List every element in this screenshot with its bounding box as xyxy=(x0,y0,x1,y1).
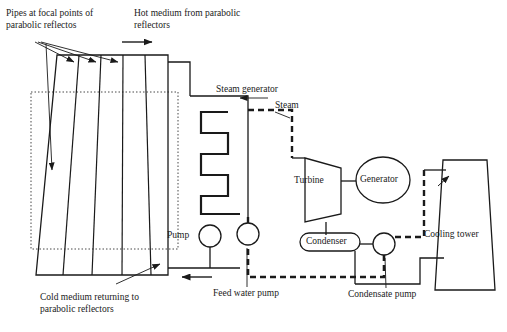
label-condenser: Condenser xyxy=(306,236,347,248)
cooling-tower-inlet-arrow xyxy=(438,176,449,186)
cooling-tower-body xyxy=(435,160,495,290)
diagram-drawing xyxy=(0,0,507,332)
label-pipes-at-focal-points: Pipes at focal points of parabolic refle… xyxy=(6,8,126,31)
collector-pipes xyxy=(63,55,151,275)
turbine-body xyxy=(305,158,341,222)
label-hot-medium: Hot medium from parabolic reflectors xyxy=(134,8,264,31)
label-pump: Pump xyxy=(167,230,189,242)
solar-loop-pump-body xyxy=(199,225,221,247)
label-condensate-pump: Condensate pump xyxy=(348,289,416,301)
diagram-canvas: Pipes at focal points of parabolic refle… xyxy=(0,0,507,332)
label-steam: Steam xyxy=(275,100,299,112)
cooling-water-return xyxy=(355,170,446,284)
label-cold-medium: Cold medium returning to parabolic refle… xyxy=(40,292,190,315)
solar-field-dotted-boundary xyxy=(31,92,178,249)
condensate-return-line xyxy=(248,245,384,277)
steam-label-leader xyxy=(275,112,290,118)
steam-line xyxy=(248,110,292,158)
feed-water-pump-body xyxy=(237,223,259,245)
label-generator: Generator xyxy=(360,174,398,186)
label-cooling-tower: Cooling tower xyxy=(424,229,479,241)
condensate-pump-body xyxy=(373,233,395,255)
steam-generator-vessel xyxy=(190,96,248,222)
label-feed-water-pump: Feed water pump xyxy=(213,288,279,300)
steam-generator-coil xyxy=(201,112,240,214)
label-steam-generator: Steam generator xyxy=(216,84,278,96)
label-turbine: Turbine xyxy=(294,175,324,187)
